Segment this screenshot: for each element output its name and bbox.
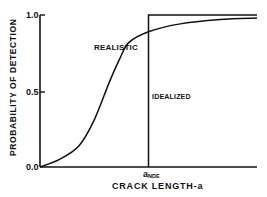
a-nde-subscript: NDE — [148, 173, 160, 179]
y-axis-label: PROBABILITY OF DETECTION — [8, 26, 18, 156]
realistic-annotation: REALISTIC — [94, 43, 138, 52]
a-nde-annotation: aNDE — [143, 169, 160, 179]
chart-canvas — [0, 0, 267, 197]
y-tick-label-05: 0.5 — [26, 87, 39, 97]
y-tick-label-1: 1.0 — [26, 10, 39, 20]
x-axis-label: CRACK LENGTH-a — [112, 181, 203, 191]
idealized-series-line — [149, 15, 258, 167]
y-tick-label-0: 0.0 — [26, 162, 39, 172]
idealized-annotation: IDEALIZED — [152, 93, 191, 100]
